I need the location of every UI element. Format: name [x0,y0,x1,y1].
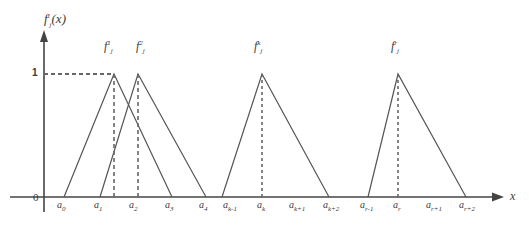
series-label-2-sup: 2 [139,39,143,47]
x-tick-label: a2 [129,200,138,213]
x-tick-label: ak+2 [323,200,339,213]
x-tick-subscript: r+1 [431,205,442,213]
y-axis [40,30,48,212]
series-label-3-sub: j [260,47,262,55]
origin-label: 0 [33,192,39,203]
series-label-4-sub: j [397,47,399,55]
x-tick-subscript: k+2 [328,205,339,213]
x-tick-subscript: r [398,205,401,213]
x-tick-subscript: k [262,205,265,213]
series-label-1-sup: 1 [107,39,111,47]
series-label-2: f2j [136,40,145,55]
y-axis-title: fij(x) [44,12,66,29]
x-tick-subscript: 3 [170,205,174,213]
x-tick-label: a0 [57,200,66,213]
x-tick-subscript: k-1 [228,205,237,213]
series-label-3: fkj [254,40,262,55]
x-tick-label: a4 [199,200,208,213]
series-line-1 [64,74,172,197]
x-tick-subscript: 1 [99,205,103,213]
x-tick-label: ar+2 [459,200,475,213]
x-tick-label: ar-1 [360,200,373,213]
y-axis-title-superscript: i [48,12,50,20]
series-label-1-sub: j [111,47,113,55]
x-tick-label: a1 [94,200,103,213]
x-tick-label: a3 [165,200,174,213]
series-label-4-sup: r [394,39,397,47]
series-label-1: f1j [104,40,113,55]
series-line-2 [100,74,206,197]
y-axis-title-argument: (x) [52,11,66,26]
x-tick-label: ak-1 [223,200,237,213]
x-tick-label: ak+1 [289,200,305,213]
figure-canvas: fij(x) 1 0 x f1j f2j fkj frj a0a1a2a3a4a… [0,0,529,236]
x-tick-label: ar+1 [426,200,442,213]
series-label-2-sub: j [143,47,145,55]
x-tick-subscript: 0 [62,205,66,213]
x-tick-subscript: k+1 [294,205,305,213]
series-label-4: frj [391,40,399,55]
series-line-3 [222,74,329,197]
y-tick-one: 1 [32,68,38,78]
x-tick-subscript: r+2 [464,205,475,213]
x-tick-subscript: r-1 [365,205,373,213]
x-axis-label: x [510,190,515,202]
series-line-4 [368,74,466,197]
x-tick-subscript: 2 [134,205,138,213]
series-label-3-sup: k [257,39,260,47]
x-tick-label: ar [393,200,401,213]
x-tick-subscript: 4 [204,205,208,213]
x-tick-label: ak [257,200,265,213]
